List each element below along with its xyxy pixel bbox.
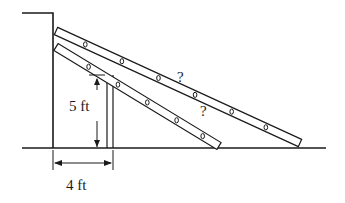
fence-distance-dimension (53, 150, 113, 170)
fence-height-dimension (89, 75, 105, 147)
ladder-long (54, 27, 301, 146)
ladder-diagram: 5 ft 4 ft ? ? (0, 0, 345, 203)
wall (22, 13, 53, 148)
fence-distance-label: 4 ft (66, 177, 87, 193)
fence-height-label: 5 ft (69, 98, 90, 114)
ladder-long-unknown-label: ? (177, 69, 184, 85)
arrow-right-icon (104, 160, 112, 166)
arrow-up-icon (94, 78, 100, 85)
ladder-short-unknown-label: ? (200, 103, 207, 119)
arrow-down-icon (94, 140, 100, 147)
arrow-left-icon (54, 160, 62, 166)
